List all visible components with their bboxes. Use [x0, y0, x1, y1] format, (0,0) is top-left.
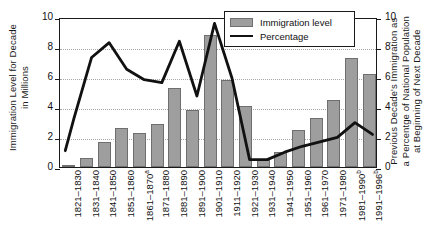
y-tick-mark-right — [376, 109, 381, 110]
y-tick-label-left: 6 — [33, 71, 53, 82]
x-tick-label: 1961–1970 — [319, 170, 330, 218]
x-tick-label: 1851–1860 — [125, 170, 136, 218]
x-tick-label: 1831–1840 — [90, 170, 101, 218]
x-tick-label: 1861–1870a — [143, 170, 155, 221]
y-axis-left-title: Immigration Level for Decade in Millions — [7, 4, 30, 172]
legend: Immigration level Percentage — [224, 11, 355, 47]
y-tick-label-right: 2 — [385, 131, 405, 142]
legend-swatch-icon — [230, 18, 253, 27]
y-tick-mark-right — [376, 49, 381, 50]
y-tick-label-left: 10 — [33, 11, 53, 22]
immigration-chart: Immigration Level for Decade in Millions… — [0, 0, 433, 236]
x-tick-label: 1991–1996b — [372, 170, 384, 221]
x-tick-label: 1971–1980 — [337, 170, 348, 218]
legend-item-percentage: Percentage — [230, 29, 349, 43]
x-tick-label: 1941–1950 — [284, 170, 295, 218]
y-tick-mark-right — [376, 19, 381, 20]
x-tick-label: 1911–1920 — [231, 170, 242, 217]
x-tick-label: 1881–1890 — [178, 170, 189, 218]
y-tick-label-left: 4 — [33, 101, 53, 112]
legend-label-percentage: Percentage — [260, 31, 309, 42]
y-axis-right-title: Previous Decade's Immigration as a Perce… — [388, 1, 423, 181]
x-tick-label: 1821–1830 — [72, 170, 83, 218]
x-tick-label: 1901–1910 — [213, 170, 224, 218]
y-tick-label-right: 4 — [385, 101, 405, 112]
x-tick-label: 1921–1930 — [249, 170, 260, 218]
x-axis-labels: 1821–18301831–18401841–18501851–18601861… — [59, 170, 377, 236]
y-tick-label-left: 8 — [33, 41, 53, 52]
x-tick-label: 1931–1940 — [266, 170, 277, 218]
x-tick-label: 1891–1900 — [196, 170, 207, 218]
y-tick-label-right: 10 — [385, 11, 405, 22]
y-tick-label-right: 6 — [385, 71, 405, 82]
x-tick-label: 1841–1850 — [107, 170, 118, 218]
y-tick-label-left: 0 — [33, 161, 53, 172]
y-tick-mark-right — [376, 79, 381, 80]
y-tick-label-left: 2 — [33, 131, 53, 142]
y-tick-label-right: 8 — [385, 41, 405, 52]
x-tick-label: 1981–1990b — [355, 170, 367, 221]
x-tick-label: 1871–1880 — [160, 170, 171, 218]
x-tick-label: 1951–1960 — [302, 170, 313, 218]
y-tick-mark-right — [376, 139, 381, 140]
legend-item-immigration-level: Immigration level — [230, 15, 349, 29]
legend-line-icon — [230, 35, 253, 37]
y-tick-label-right: 0 — [385, 161, 405, 172]
legend-label-immigration-level: Immigration level — [260, 17, 332, 28]
